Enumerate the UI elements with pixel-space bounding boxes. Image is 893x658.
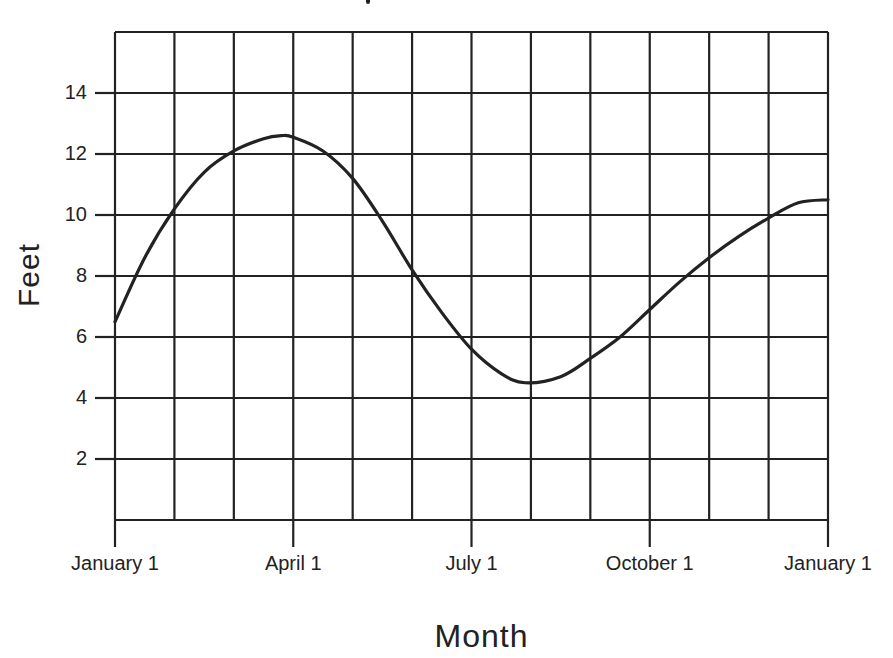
x-tick-label: April 1	[265, 552, 322, 575]
x-tick-label: January 1	[71, 552, 159, 575]
x-tick-label: January 1	[784, 552, 872, 575]
x-axis-label: Month	[0, 618, 893, 655]
grid	[95, 32, 828, 547]
x-tick-label: October 1	[606, 552, 694, 575]
x-tick-label: July 1	[445, 552, 497, 575]
y-tick-label: 6	[47, 325, 87, 348]
y-tick-label: 4	[47, 386, 87, 409]
y-tick-label: 2	[47, 447, 87, 470]
y-tick-label: 8	[47, 264, 87, 287]
y-tick-label: 12	[47, 142, 87, 165]
y-axis-label: Feet	[12, 240, 46, 310]
y-tick-label: 10	[47, 203, 87, 226]
y-tick-label: 14	[47, 81, 87, 104]
